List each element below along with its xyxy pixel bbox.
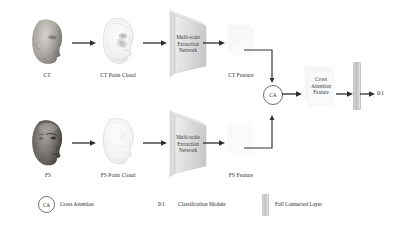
ct-head-image (26, 16, 68, 68)
cross-attention-node: CA (263, 85, 283, 105)
ct-input-label: CT (26, 72, 68, 78)
fs-feature-label: FS Feature (214, 172, 268, 178)
legend-cross-attention-icon: CA (38, 196, 55, 213)
legend-ca-symbol: CA (43, 202, 50, 208)
legend-classification-text: Classification Module (178, 201, 226, 207)
legend-classification-symbol: 0/1 (158, 201, 165, 207)
cross-attention-feature-line1: Cross (315, 76, 327, 83)
fs-network-label-group: Multi-scale Extraction Network (170, 111, 206, 177)
legend-fc-layer-icon (262, 194, 269, 216)
fs-network-label-line1: Multi-scale (176, 134, 200, 141)
arrow-ct-pointcloud-to-network (143, 39, 167, 47)
cross-attention-node-label: CA (269, 92, 276, 98)
ct-network-label-line3: Network (179, 47, 197, 54)
fs-input-label: FS (26, 172, 70, 178)
fs-point-cloud-label: FS Point Cloud (88, 172, 148, 178)
classification-output-label: 0/1 (377, 90, 384, 96)
ct-network-label-line1: Multi-scale (176, 34, 200, 41)
cross-attention-feature-label-group: Cross Attention Feature (304, 64, 338, 108)
legend-cross-attention-text: Cross Attention (60, 201, 94, 207)
ct-network-label-line2: Extraction (177, 41, 199, 48)
fs-head-image (26, 116, 70, 170)
arrow-fs-to-pointcloud (72, 139, 96, 147)
arrow-fc-to-output (360, 90, 375, 98)
architecture-diagram: CT (0, 0, 395, 232)
fs-point-cloud-image (96, 115, 140, 169)
arrow-feature-to-fc-layer (336, 90, 353, 98)
fs-network-label-line3: Network (179, 147, 197, 154)
arrow-ct-network-to-feature (203, 39, 225, 47)
ct-point-cloud-image (96, 15, 140, 69)
cross-attention-feature-line3: Feature (313, 89, 329, 96)
arrow-fs-network-to-feature (203, 139, 225, 147)
arrow-ct-to-pointcloud (72, 39, 96, 47)
arrow-fs-pointcloud-to-network (143, 139, 167, 147)
cross-attention-feature-line2: Attention (311, 83, 331, 90)
legend-fc-layer-text: Full Connected Layer (275, 201, 322, 207)
fs-network-label-line2: Extraction (177, 141, 199, 148)
cross-attention-feature-block: Cross Attention Feature (302, 64, 338, 108)
ct-point-cloud-label: CT Point Cloud (88, 72, 148, 78)
ct-network-label-group: Multi-scale Extraction Network (170, 11, 206, 77)
full-connected-layer-bar (353, 62, 361, 110)
arrow-ca-to-cross-attention-feature (282, 90, 302, 98)
